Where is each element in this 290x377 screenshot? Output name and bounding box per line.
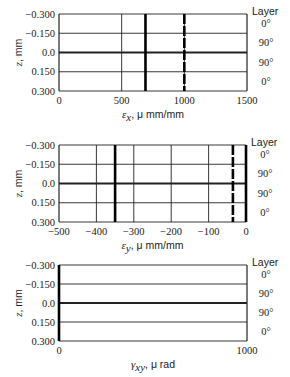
layer-orientation-label: 90°	[259, 307, 274, 318]
y-tick-label: 0.0	[42, 298, 55, 309]
x-tick-label: −200	[160, 226, 182, 237]
layer-orientation-label: 90°	[258, 168, 273, 179]
y-tick-label: 0.150	[31, 317, 55, 328]
x-tick-label: 500	[114, 95, 130, 106]
layer-orientation-label: 90°	[259, 57, 274, 68]
x-axis-label: εy, μ mm/mm	[122, 239, 184, 254]
y-tick-label: −0.150	[25, 159, 55, 170]
strain-distribution-charts: −0.300−0.1500.00.1500.300050010001500z, …	[0, 0, 290, 377]
y-tick-label: −0.150	[25, 279, 55, 290]
x-tick-label: 1500	[237, 95, 258, 106]
y-tick-label: 0.300	[31, 86, 55, 97]
layer-legend-title: Layer	[251, 136, 278, 148]
y-axis-label: z, mm	[12, 38, 24, 67]
layer-orientation-label: 0°	[261, 76, 270, 87]
x-tick-label: 1000	[174, 95, 195, 106]
y-tick-label: 0.150	[31, 197, 55, 208]
y-tick-label: 0.300	[31, 336, 55, 347]
x-axis-label: γxy, μ rad	[131, 358, 175, 373]
chart-panel-2: −0.300−0.1500.00.1500.300−500−400−300−20…	[12, 136, 278, 254]
x-tick-label: −100	[198, 226, 220, 237]
x-tick-label: −500	[48, 226, 70, 237]
y-tick-label: 0.0	[42, 178, 55, 189]
layer-orientation-label: 90°	[259, 288, 274, 299]
layer-orientation-label: 0°	[260, 149, 269, 160]
chart-panel-1: −0.300−0.1500.00.1500.300050010001500z, …	[12, 5, 279, 123]
layer-legend-title: Layer	[252, 5, 279, 17]
layer-orientation-label: 0°	[261, 18, 270, 29]
x-tick-label: 0	[56, 345, 61, 356]
x-axis-label: εx, μ mm/mm	[122, 108, 184, 123]
y-axis-label: z, mm	[12, 169, 24, 198]
layer-orientation-label: 0°	[261, 326, 270, 337]
layer-orientation-label: 0°	[261, 269, 270, 280]
chart-panel-3: −0.300−0.1500.00.1500.30001000z, mmγxy, …	[12, 256, 279, 373]
y-tick-label: −0.300	[25, 140, 55, 151]
y-tick-label: −0.300	[25, 9, 55, 20]
y-tick-label: 0.150	[31, 66, 55, 77]
y-axis-label: z, mm	[12, 289, 24, 318]
x-tick-label: 0	[243, 226, 248, 237]
layer-orientation-label: 90°	[258, 188, 273, 199]
x-tick-label: 1000	[237, 345, 258, 356]
layer-legend-title: Layer	[252, 256, 279, 268]
y-tick-label: 0.0	[42, 47, 55, 58]
x-tick-label: −400	[86, 226, 108, 237]
layer-orientation-label: 90°	[259, 37, 274, 48]
y-tick-label: −0.300	[25, 260, 55, 271]
layer-orientation-label: 0°	[260, 207, 269, 218]
y-tick-label: −0.150	[25, 28, 55, 39]
x-tick-label: −300	[123, 226, 145, 237]
x-tick-label: 0	[56, 95, 61, 106]
